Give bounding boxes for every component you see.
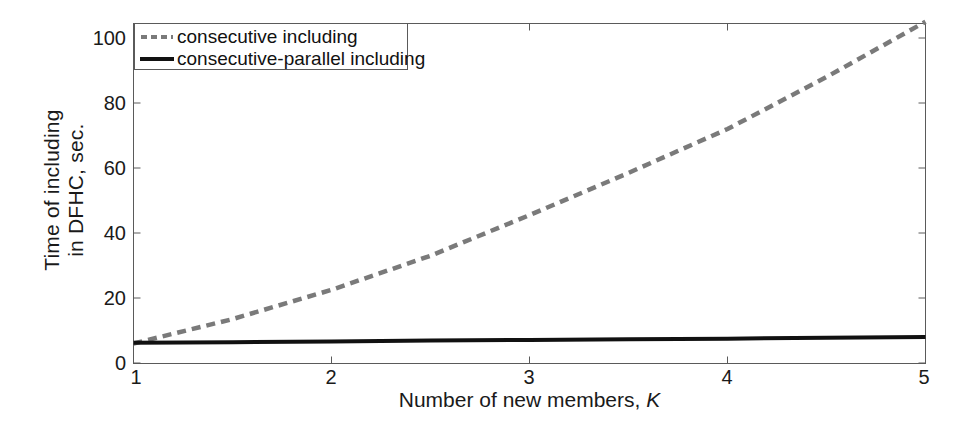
series-line-1	[134, 337, 926, 343]
chart-figure: Time of including in DFHC, sec. 100 80 6…	[0, 0, 976, 430]
legend-solid-line-icon	[139, 52, 175, 66]
chart-legend: consecutive including consecutive-parall…	[134, 23, 408, 70]
series-line-0	[134, 22, 926, 344]
legend-label-1: consecutive-parallel including	[177, 49, 425, 68]
legend-item-consecutive-parallel-including: consecutive-parallel including	[139, 47, 425, 70]
legend-item-consecutive-including: consecutive including	[139, 25, 358, 48]
legend-dashed-line-icon	[139, 30, 175, 44]
legend-label-0: consecutive including	[177, 27, 358, 46]
data-series	[134, 22, 926, 344]
